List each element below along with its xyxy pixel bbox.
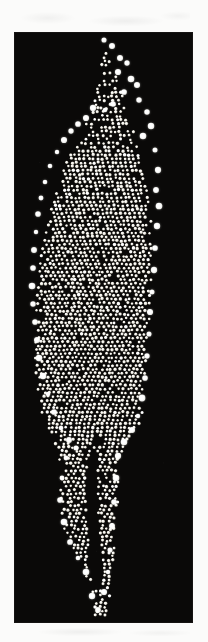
- paper-smudge-top: [18, 6, 190, 30]
- figure-root: [0, 0, 208, 642]
- particle-aggregate-canvas: [15, 33, 192, 622]
- paper-smudge-bottom: [20, 626, 190, 640]
- image-panel: [15, 33, 192, 622]
